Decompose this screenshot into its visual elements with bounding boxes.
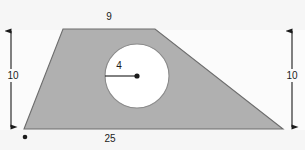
geometry-figure: 9 10 10 25 4	[0, 0, 305, 150]
right-dimension-label: 10	[286, 70, 298, 81]
figure-canvas: 9 10 10 25 4	[0, 0, 305, 150]
top-edge-dimension-label: 9	[106, 11, 112, 22]
radius-dimension-label: 4	[116, 60, 122, 71]
circle-center-dot	[134, 73, 139, 78]
bottom-edge-dimension-label: 25	[104, 133, 116, 144]
corner-reference-dot	[23, 135, 28, 140]
left-dimension-label: 10	[7, 70, 19, 81]
